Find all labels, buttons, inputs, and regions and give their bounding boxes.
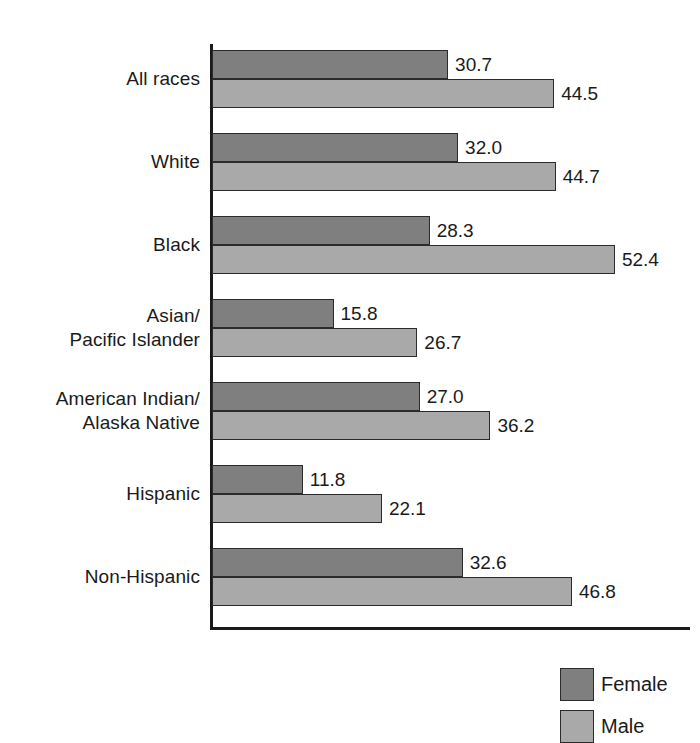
- bar-female[interactable]: [212, 133, 458, 162]
- legend-item-female[interactable]: Female: [560, 668, 668, 701]
- category-label: American Indian/Alaska Native: [0, 387, 200, 435]
- bar-female[interactable]: [212, 50, 448, 79]
- category-label: Asian/Pacific Islander: [0, 304, 200, 352]
- bar-row-male: 44.7: [212, 162, 700, 191]
- bar-value-label: 46.8: [572, 577, 616, 606]
- bar-row-male: 26.7: [212, 328, 700, 357]
- legend-swatch-female: [560, 668, 594, 701]
- category-label-line: Non-Hispanic: [0, 565, 200, 589]
- bar-row-male: 52.4: [212, 245, 700, 274]
- bar-row-female: 11.8: [212, 465, 700, 494]
- bar-female[interactable]: [212, 548, 463, 577]
- category-label-line: Hispanic: [0, 482, 200, 506]
- bar-male[interactable]: [212, 411, 490, 440]
- bar-value-label: 11.8: [303, 465, 346, 494]
- legend-label: Female: [601, 673, 668, 696]
- bar-row-female: 32.6: [212, 548, 700, 577]
- legend-item-male[interactable]: Male: [560, 710, 644, 743]
- bar-male[interactable]: [212, 494, 382, 523]
- bar-row-female: 32.0: [212, 133, 700, 162]
- bar-row-male: 44.5: [212, 79, 700, 108]
- bar-value-label: 32.6: [463, 548, 507, 577]
- bar-value-label: 44.5: [554, 79, 598, 108]
- bar-male[interactable]: [212, 328, 417, 357]
- x-axis-line: [210, 627, 690, 630]
- category-label: Hispanic: [0, 482, 200, 506]
- bar-row-female: 28.3: [212, 216, 700, 245]
- category-label: White: [0, 150, 200, 174]
- bar-value-label: 30.7: [448, 50, 492, 79]
- category-label-line: Asian/: [0, 304, 200, 328]
- bar-value-label: 27.0: [420, 382, 464, 411]
- bar-value-label: 15.8: [334, 299, 378, 328]
- bar-male[interactable]: [212, 245, 615, 274]
- category-label: All races: [0, 67, 200, 91]
- legend-label: Male: [601, 715, 644, 738]
- bar-female[interactable]: [212, 465, 303, 494]
- bar-female[interactable]: [212, 299, 334, 328]
- bar-row-male: 22.1: [212, 494, 700, 523]
- bar-row-female: 15.8: [212, 299, 700, 328]
- category-label-line: Alaska Native: [0, 411, 200, 435]
- bar-value-label: 44.7: [556, 162, 600, 191]
- bar-value-label: 26.7: [417, 328, 461, 357]
- bar-value-label: 36.2: [490, 411, 534, 440]
- category-label-line: All races: [0, 67, 200, 91]
- category-label-line: Black: [0, 233, 200, 257]
- bar-male[interactable]: [212, 79, 554, 108]
- category-label-line: American Indian/: [0, 387, 200, 411]
- category-label: Non-Hispanic: [0, 565, 200, 589]
- bar-value-label: 32.0: [458, 133, 502, 162]
- bar-value-label: 28.3: [430, 216, 474, 245]
- bar-male[interactable]: [212, 577, 572, 606]
- bar-female[interactable]: [212, 382, 420, 411]
- category-label-line: Pacific Islander: [0, 328, 200, 352]
- category-label-line: White: [0, 150, 200, 174]
- category-label: Black: [0, 233, 200, 257]
- bar-value-label: 22.1: [382, 494, 426, 523]
- bar-row-male: 46.8: [212, 577, 700, 606]
- legend-swatch-male: [560, 710, 594, 743]
- bar-male[interactable]: [212, 162, 556, 191]
- bar-row-male: 36.2: [212, 411, 700, 440]
- bar-female[interactable]: [212, 216, 430, 245]
- bar-row-female: 30.7: [212, 50, 700, 79]
- bar-row-female: 27.0: [212, 382, 700, 411]
- bar-value-label: 52.4: [615, 245, 659, 274]
